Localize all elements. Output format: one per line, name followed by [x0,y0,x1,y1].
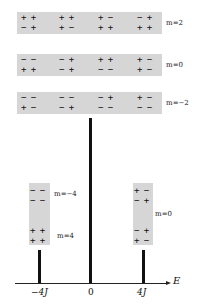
m-label: m=2 [166,19,183,27]
config: + −− − [137,92,152,112]
tick-label: 4J [137,287,146,297]
config: − ++ − [134,225,149,245]
config: − +− − [98,92,113,112]
bar-minus-4j [38,250,41,283]
m-label: m=−4 [54,190,77,198]
axis-label-e: E [173,275,180,286]
config: − −+ + [21,54,36,74]
bar-4j [142,250,145,283]
m-label: m=−2 [166,99,189,107]
config: − −− + [59,92,74,112]
config: + +− − [98,54,113,74]
bar-zero [89,118,92,283]
config: − −− − [30,185,45,205]
tick-label: 0 [88,287,94,297]
energy-axis [15,283,167,284]
config: − +− + [59,54,74,74]
m-label: m=0 [166,61,183,69]
config: + ++ + [30,225,45,245]
config: − −+ − [21,92,36,112]
config: + −+ + [98,12,113,32]
m-label: m=0 [155,210,172,218]
config: + −+ − [137,54,152,74]
config: + −− + [134,185,149,205]
m-label: m=4 [57,232,74,240]
tick-label: −4J [31,287,48,297]
config: − ++ + [137,12,152,32]
config: + +− + [21,12,36,32]
config: + ++ − [59,12,74,32]
axis-arrow-icon [166,281,171,285]
